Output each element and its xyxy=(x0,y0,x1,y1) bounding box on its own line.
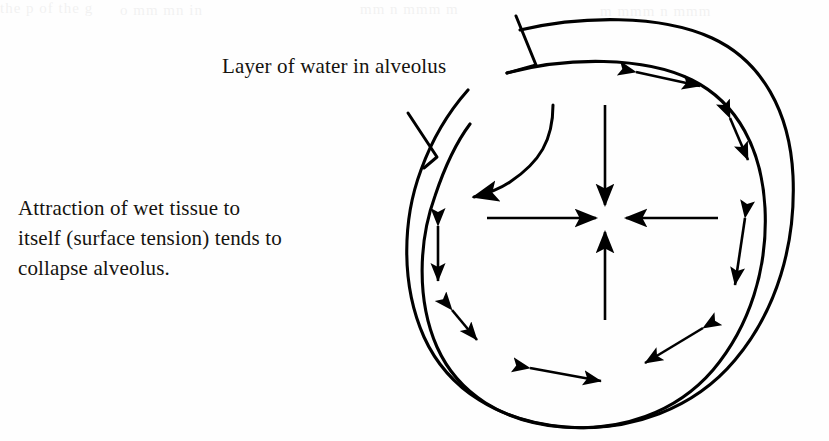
alveolus-outer-wall xyxy=(407,20,794,428)
pointer-arrow-to-water-layer xyxy=(474,105,553,197)
leader-line-water-label xyxy=(507,16,536,73)
attraction-line-3: collapse alveolus. xyxy=(18,253,438,283)
figure-canvas: the p of the g o mm mn in mm n mmm m m m… xyxy=(0,0,829,441)
attraction-line-1: Attraction of wet tissue to xyxy=(18,193,438,223)
alveolus-inner-wall xyxy=(422,61,765,427)
tension-arrow-bottom-left xyxy=(452,310,477,340)
attraction-line-2: itself (surface tension) tends to xyxy=(18,223,438,253)
tension-arrow-bottom-right xyxy=(645,328,703,363)
label-attraction-surface-tension: Attraction of wet tissue to itself (surf… xyxy=(18,193,438,283)
tension-arrow-bottom-center xyxy=(530,368,601,381)
tension-arrow-right xyxy=(735,218,745,285)
label-layer-of-water: Layer of water in alveolus xyxy=(222,51,446,81)
